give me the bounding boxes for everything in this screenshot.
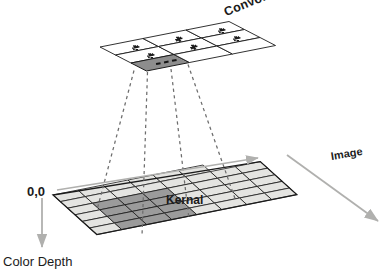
diagram-canvas: Convolution Matrix Image Kernal 0,0 Colo… <box>0 0 391 279</box>
origin-label: 0,0 <box>27 184 45 199</box>
diagram-vector-layer <box>0 0 391 279</box>
kernal-label: Kernal <box>166 193 203 207</box>
convolution-matrix <box>100 22 276 72</box>
color-depth-label: Color Depth <box>3 254 72 269</box>
image-axis-arrow <box>287 155 378 221</box>
